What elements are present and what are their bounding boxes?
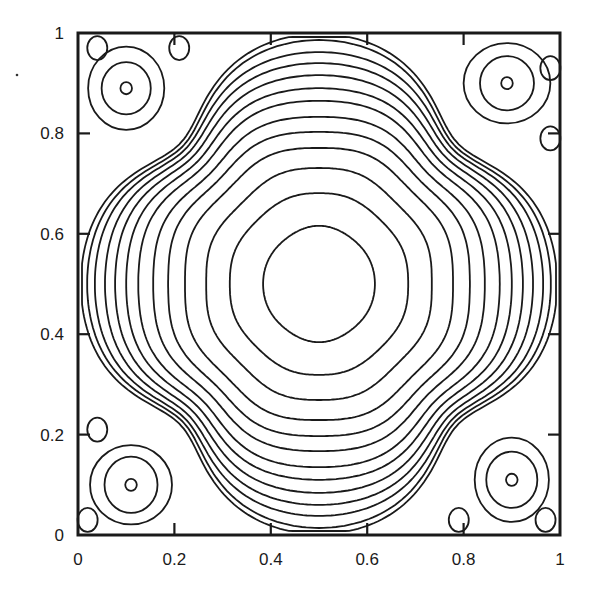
y-tick-label: 0.2	[40, 426, 64, 445]
x-tick-label: 0.2	[163, 550, 187, 569]
secondary-eddy	[536, 508, 556, 532]
x-tick-label: 0.6	[355, 550, 379, 569]
corner-contour	[506, 474, 518, 486]
corner-vortex-top-right	[464, 43, 551, 123]
primary-contour	[185, 148, 453, 420]
y-tick-label: 0	[55, 526, 64, 545]
secondary-eddy	[87, 418, 107, 442]
primary-vortex-contours	[82, 37, 556, 531]
secondary-eddy	[540, 126, 560, 150]
corner-vortex-contours	[88, 43, 550, 524]
secondary-eddy	[169, 36, 189, 60]
plot-frame	[78, 33, 560, 535]
stray-dot	[16, 74, 19, 77]
secondary-eddy	[449, 508, 469, 532]
y-tick-label: 0.4	[40, 325, 64, 344]
y-axis-tick-labels: 00.20.40.60.81	[40, 24, 64, 545]
secondary-eddy	[87, 36, 107, 60]
corner-contour	[105, 457, 158, 513]
x-tick-label: 0.8	[452, 550, 476, 569]
primary-contour	[168, 132, 470, 436]
corner-contour	[501, 77, 513, 89]
primary-contour	[126, 88, 512, 480]
corner-contour	[464, 43, 551, 123]
corner-vortex-bottom-right	[475, 438, 549, 522]
corner-contour	[486, 452, 537, 508]
corner-contour	[480, 56, 534, 110]
primary-contour	[95, 52, 543, 516]
secondary-eddies	[78, 36, 561, 532]
y-tick-label: 0.6	[40, 225, 64, 244]
corner-contour	[125, 479, 137, 491]
secondary-eddy	[78, 508, 98, 532]
x-tick-label: 0	[73, 550, 82, 569]
corner-vortex-bottom-left	[90, 445, 172, 524]
contour-plot: 00.20.40.60.81 00.20.40.60.81	[0, 0, 593, 605]
corner-contour	[120, 82, 132, 94]
primary-contour	[206, 168, 432, 400]
primary-contour	[230, 193, 408, 375]
y-tick-label: 0.8	[40, 124, 64, 143]
primary-contour	[105, 63, 533, 505]
x-axis-tick-labels: 00.20.40.60.81	[73, 550, 564, 569]
primary-contour	[263, 226, 375, 342]
x-tick-label: 1	[555, 550, 564, 569]
primary-contour	[115, 75, 523, 493]
x-tick-label: 0.4	[259, 550, 283, 569]
y-tick-label: 1	[55, 24, 64, 43]
axis-ticks	[78, 33, 560, 535]
corner-contour	[102, 62, 151, 114]
